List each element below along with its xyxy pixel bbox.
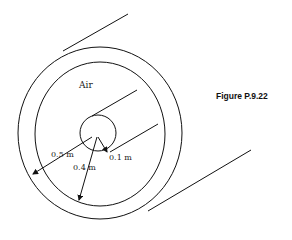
dim-label-0.1: 0.1 m [109, 153, 132, 162]
figure-caption: Figure P.9.22 [216, 91, 268, 101]
inner-conductor [80, 115, 116, 151]
outer-tangent-top [63, 14, 128, 51]
air-label: Air [79, 80, 93, 90]
dim-label-0.4: 0.4 m [73, 163, 96, 172]
conductor-tangent-bottom [110, 124, 158, 152]
outer-cylinder [18, 47, 182, 219]
coaxial-cable-diagram [0, 0, 292, 240]
dim-label-0.5: 0.5 m [51, 150, 74, 159]
dim-0.1 [98, 137, 107, 152]
conductor-tangent-top [92, 90, 137, 116]
inner-shell [35, 62, 165, 206]
outer-tangent-bottom [148, 150, 251, 211]
